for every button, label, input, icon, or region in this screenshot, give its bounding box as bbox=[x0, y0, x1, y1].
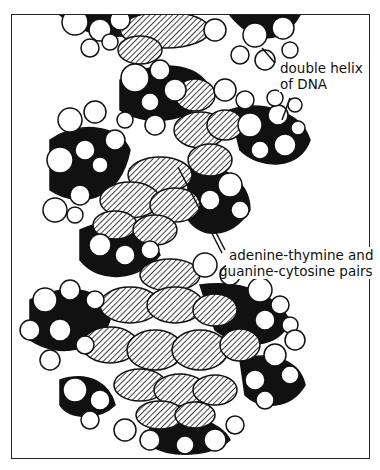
double-helix-label: double helix of DNA bbox=[279, 60, 364, 92]
base-pairs-label: adenine-thymine and guanine-cytosine pai… bbox=[226, 247, 374, 279]
base-pairs-label-line1: adenine-thymine and bbox=[227, 247, 373, 263]
double-helix-label-line1: double helix bbox=[280, 60, 363, 76]
dna-diagram: double helix of DNA adenine-thymine and … bbox=[0, 0, 380, 470]
base-pairs-label-line2: guanine-cytosine pairs bbox=[219, 263, 373, 279]
double-helix-label-line2: of DNA bbox=[280, 76, 363, 92]
